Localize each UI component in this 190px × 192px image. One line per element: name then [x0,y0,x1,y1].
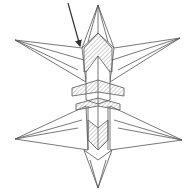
fold-arrow [68,3,80,46]
bottom-point [84,150,112,188]
lower-right-point [110,106,182,150]
lower-left-point [15,106,88,150]
upper-right-point [110,38,180,82]
origami-star-diagram [0,0,190,192]
upper-left-point [15,40,86,82]
